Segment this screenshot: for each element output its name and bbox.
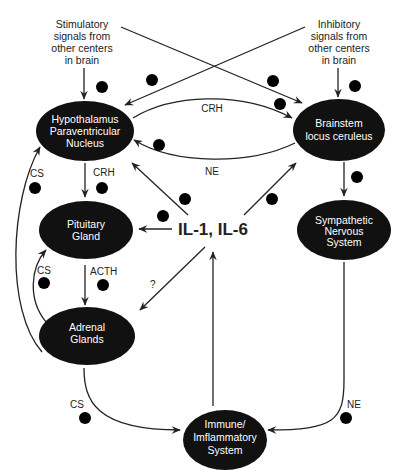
stress-immune-diagram: Stimulatory signals from other centers i… bbox=[0, 0, 408, 474]
edge-stim-to-brainstem bbox=[121, 27, 302, 103]
label-crh-top: CRH bbox=[201, 103, 223, 114]
svg-text:signals from: signals from bbox=[54, 30, 111, 42]
svg-text:Immune/: Immune/ bbox=[205, 418, 246, 430]
edge-ne-sympathetic-to-immune bbox=[268, 262, 344, 430]
minus-sign-icon bbox=[340, 412, 352, 424]
label-cs-immune: CS bbox=[70, 399, 84, 410]
plus-sign-icon bbox=[96, 81, 108, 93]
node-pituitary: Pituitary Gland bbox=[39, 201, 133, 259]
svg-text:in brain: in brain bbox=[322, 54, 357, 66]
plus-sign-icon bbox=[97, 279, 109, 291]
svg-text:Brainstem: Brainstem bbox=[315, 117, 363, 129]
edge-cs-adrenal-to-immune bbox=[84, 368, 180, 430]
svg-text:other centers: other centers bbox=[308, 42, 369, 54]
plus-sign-icon bbox=[267, 75, 279, 87]
plus-sign-icon bbox=[266, 193, 278, 205]
plus-sign-icon bbox=[179, 193, 191, 205]
plus-sign-icon bbox=[274, 98, 286, 110]
inhibitory-signals-label: Inhibitory signals from other centers in… bbox=[308, 18, 369, 66]
svg-text:Imflammatory: Imflammatory bbox=[193, 431, 257, 443]
svg-text:Paraventricular: Paraventricular bbox=[50, 125, 121, 137]
svg-text:in brain: in brain bbox=[65, 54, 100, 66]
label-crh-down: CRH bbox=[93, 167, 115, 178]
svg-text:other centers: other centers bbox=[51, 42, 112, 54]
svg-text:Inhibitory: Inhibitory bbox=[318, 18, 361, 30]
svg-text:System: System bbox=[207, 444, 242, 456]
plus-sign-icon bbox=[96, 182, 108, 194]
stimulatory-signals-label: Stimulatory signals from other centers i… bbox=[51, 18, 112, 66]
edge-il-to-hypo bbox=[132, 163, 188, 215]
svg-text:locus ceruleus: locus ceruleus bbox=[305, 130, 372, 142]
svg-text:System: System bbox=[326, 236, 361, 248]
label-unknown: ? bbox=[150, 279, 156, 290]
plus-sign-icon bbox=[351, 171, 363, 183]
svg-text:Adrenal: Adrenal bbox=[69, 321, 105, 333]
plus-sign-icon bbox=[153, 139, 165, 151]
label-ne-immune: NE bbox=[347, 399, 361, 410]
label-acth: ACTH bbox=[90, 266, 117, 277]
edge-il-to-brainstem bbox=[244, 163, 296, 215]
label-cs-hypo: CS bbox=[30, 168, 44, 179]
node-hypothalamus: Hypothalamus Paraventricular Nucleus bbox=[36, 101, 134, 161]
node-brainstem: Brainstem locus ceruleus bbox=[293, 99, 385, 161]
node-adrenal: Adrenal Glands bbox=[39, 307, 135, 365]
minus-sign-icon bbox=[349, 80, 361, 92]
label-ne-loop: NE bbox=[205, 166, 219, 177]
svg-text:signals from: signals from bbox=[311, 30, 368, 42]
svg-text:Nucleus: Nucleus bbox=[66, 137, 104, 149]
node-immune: Immune/ Imflammatory System bbox=[183, 410, 267, 470]
minus-sign-icon bbox=[79, 412, 91, 424]
label-cs-pit: CS bbox=[37, 265, 51, 276]
node-cytokines-il1-il6: IL-1, IL-6 bbox=[178, 220, 248, 239]
svg-text:Stimulatory: Stimulatory bbox=[56, 18, 109, 30]
svg-text:Hypothalamus: Hypothalamus bbox=[51, 113, 118, 125]
svg-text:Gland: Gland bbox=[72, 230, 100, 242]
svg-text:Glands: Glands bbox=[70, 333, 103, 345]
minus-sign-icon bbox=[146, 74, 158, 86]
plus-sign-icon bbox=[157, 210, 169, 222]
svg-text:Pituitary: Pituitary bbox=[67, 218, 106, 230]
node-sympathetic: Sympathetic Nervous System bbox=[297, 200, 391, 260]
minus-sign-icon bbox=[29, 182, 41, 194]
minus-sign-icon bbox=[38, 277, 50, 289]
